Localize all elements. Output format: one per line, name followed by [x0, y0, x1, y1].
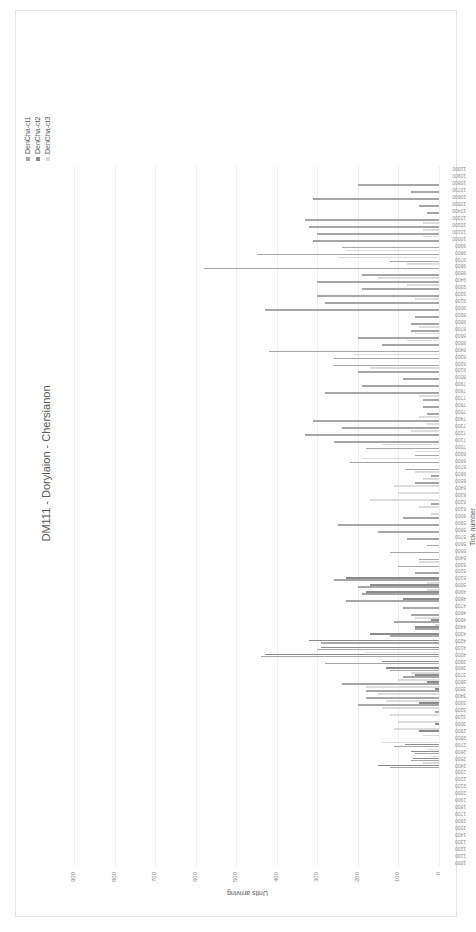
gridline: [115, 166, 116, 866]
x-tick-label: 5400: [455, 555, 466, 561]
bar-dencha-ct3: [419, 395, 439, 397]
legend-item: DenCha-ct1: [24, 117, 31, 161]
bar-dencha-ct3: [423, 229, 439, 231]
x-tick-label: 7200: [455, 430, 466, 436]
x-tick-label: 9000: [455, 305, 466, 311]
bar-dencha-ct1: [419, 559, 439, 561]
x-tick-label: 10100: [452, 229, 466, 235]
x-tick-label: 7000: [455, 444, 466, 450]
bar-dencha-ct1: [415, 753, 439, 755]
x-tick-label: 10800: [452, 180, 466, 186]
bar-dencha-ct1: [317, 233, 439, 235]
bar-dencha-ct3: [398, 721, 439, 723]
bar-dencha-ct3: [386, 700, 439, 702]
bar-dencha-ct3: [398, 679, 439, 681]
bar-dencha-ct3: [370, 499, 439, 501]
bar-dencha-ct3: [382, 444, 439, 446]
bar-dencha-ct1: [269, 351, 439, 353]
bar-dencha-ct1: [390, 670, 439, 672]
x-tick-label: 2100: [455, 783, 466, 789]
y-tick-label: 500: [232, 872, 238, 896]
x-tick-label: 10400: [452, 208, 466, 214]
legend-label: DenCha-ct2: [34, 117, 41, 154]
bar-dencha-ct1: [313, 420, 439, 422]
bar-dencha-ct3: [415, 333, 439, 335]
bar-dencha-ct1: [346, 600, 439, 602]
bar-dencha-ct2: [378, 765, 439, 767]
bar-dencha-ct1: [358, 337, 439, 339]
bar-dencha-ct3: [419, 561, 439, 563]
x-tick-label: 6700: [455, 465, 466, 471]
bar-dencha-ct1: [427, 413, 439, 415]
bar-dencha-ct2: [435, 723, 439, 725]
x-tick-label: 9300: [455, 284, 466, 290]
bar-dencha-ct3: [415, 451, 439, 453]
x-tick-label: 8000: [455, 374, 466, 380]
bar-dencha-ct1: [362, 593, 439, 595]
x-tick-label: 4300: [455, 631, 466, 637]
x-tick-label: 3300: [455, 700, 466, 706]
bar-dencha-ct1: [403, 517, 440, 519]
bar-dencha-ct1: [394, 621, 439, 623]
bar-dencha-ct1: [423, 406, 439, 408]
x-tick-label: 4600: [455, 610, 466, 616]
x-tick-label: 4700: [455, 603, 466, 609]
x-tick-label: 4200: [455, 638, 466, 644]
x-tick-label: 10000: [452, 236, 466, 242]
gridline: [398, 166, 399, 866]
x-axis-label: Tick number: [469, 508, 476, 546]
bar-dencha-ct1: [358, 586, 439, 588]
bar-dencha-ct3: [394, 728, 439, 730]
bar-dencha-ct2: [431, 619, 439, 621]
bar-dencha-ct3: [427, 582, 439, 584]
x-tick-label: 2500: [455, 756, 466, 762]
bar-dencha-ct1: [403, 378, 440, 380]
bar-dencha-ct1: [313, 240, 439, 242]
bar-dencha-ct2: [415, 626, 439, 628]
x-tick-label: 5300: [455, 562, 466, 568]
bar-dencha-ct3: [346, 250, 439, 252]
bar-dencha-ct3: [423, 762, 439, 764]
x-tick-label: 9800: [455, 250, 466, 256]
y-tick-label: 300: [313, 872, 319, 896]
bar-dencha-ct1: [317, 281, 439, 283]
x-tick-label: 8100: [455, 367, 466, 373]
bar-dencha-ct2: [419, 730, 439, 732]
x-tick-label: 8800: [455, 319, 466, 325]
x-tick-label: 10900: [452, 173, 466, 179]
x-tick-label: 10700: [452, 187, 466, 193]
bar-dencha-ct3: [382, 707, 439, 709]
bar-dencha-ct3: [423, 735, 439, 737]
bar-dencha-ct2: [309, 640, 439, 642]
x-tick-label: 6400: [455, 485, 466, 491]
gridline: [236, 166, 237, 866]
bar-dencha-ct1: [350, 462, 439, 464]
x-tick-label: 7700: [455, 395, 466, 401]
bar-dencha-ct1: [358, 372, 439, 374]
bar-dencha-ct3: [366, 652, 439, 654]
x-tick-label: 8900: [455, 312, 466, 318]
x-tick-label: 5800: [455, 527, 466, 533]
bar-dencha-ct1: [317, 649, 439, 651]
bar-dencha-ct1: [390, 635, 439, 637]
bar-dencha-ct3: [354, 354, 439, 356]
x-tick-label: 6000: [455, 513, 466, 519]
x-tick-label: 3200: [455, 707, 466, 713]
bar-dencha-ct1: [342, 427, 439, 429]
x-tick-label: 3800: [455, 665, 466, 671]
bar-dencha-ct3: [394, 485, 439, 487]
bar-dencha-ct3: [362, 458, 439, 460]
x-tick-label: 4800: [455, 596, 466, 602]
bar-dencha-ct1: [305, 434, 439, 436]
bar-dencha-ct1: [411, 760, 439, 762]
y-tick-label: 100: [394, 872, 400, 896]
bar-dencha-ct3: [382, 742, 439, 744]
x-tick-label: 10300: [452, 215, 466, 221]
x-tick-label: 2400: [455, 763, 466, 769]
bar-dencha-ct2: [366, 591, 439, 593]
bar-dencha-ct1: [431, 503, 439, 505]
bar-dencha-ct1: [358, 184, 439, 186]
x-tick-label: 8600: [455, 333, 466, 339]
bar-dencha-ct3: [419, 506, 439, 508]
